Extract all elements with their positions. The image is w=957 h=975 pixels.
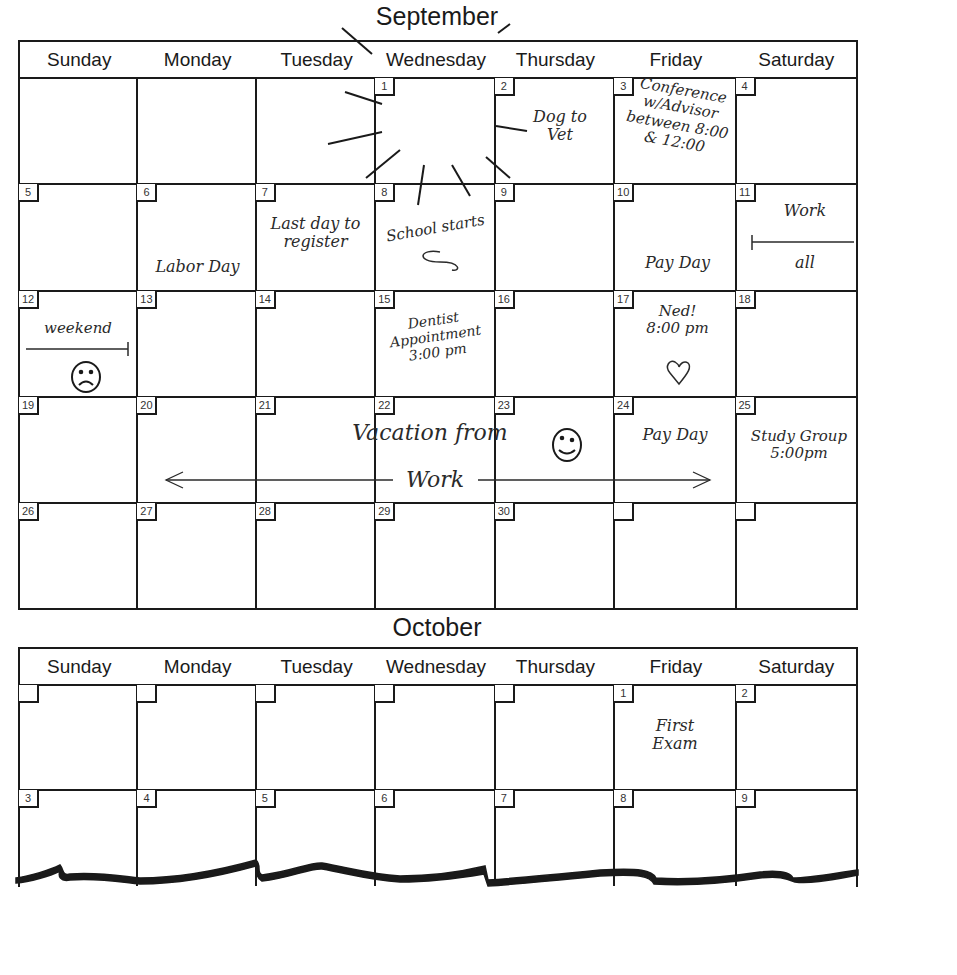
weekday-thursday: Thursday xyxy=(496,649,615,684)
day-number: 22 xyxy=(375,397,395,415)
day-number xyxy=(736,503,756,521)
weekday-sunday: Sunday xyxy=(20,42,138,77)
day-cell[interactable] xyxy=(737,504,856,609)
weekday-sunday: Sunday xyxy=(20,649,138,684)
day-number xyxy=(614,503,634,521)
day-cell[interactable]: 6 xyxy=(376,791,495,886)
day-number: 12 xyxy=(19,291,39,309)
day-number: 26 xyxy=(19,503,39,521)
weekday-wednesday: Wednesday xyxy=(376,42,495,77)
day-number: 24 xyxy=(614,397,634,415)
week-row: 12 xyxy=(20,686,856,791)
day-number xyxy=(495,685,515,703)
day-number xyxy=(256,685,276,703)
day-number: 10 xyxy=(614,184,634,202)
day-cell[interactable] xyxy=(138,79,256,183)
day-cell[interactable] xyxy=(257,79,376,183)
day-number: 5 xyxy=(256,790,276,808)
day-cell[interactable] xyxy=(138,686,256,789)
note-first-exam: First Exam xyxy=(640,717,710,754)
note-vacation-top: Vacation from xyxy=(330,420,530,445)
weekday-friday: Friday xyxy=(615,42,736,77)
day-number: 16 xyxy=(495,291,515,309)
weekday-saturday: Saturday xyxy=(737,42,856,77)
day-cell[interactable]: 9 xyxy=(496,185,615,290)
day-number: 1 xyxy=(614,685,634,703)
day-cell[interactable]: 18 xyxy=(737,292,856,396)
note-weekend: weekend xyxy=(28,320,128,337)
weekday-tuesday: Tuesday xyxy=(257,42,376,77)
day-cell[interactable]: 13 xyxy=(138,292,256,396)
day-cell[interactable]: 12 xyxy=(20,292,138,396)
day-number: 6 xyxy=(375,790,395,808)
day-cell[interactable]: 5 xyxy=(257,791,376,886)
note-work-top: Work xyxy=(775,202,835,220)
day-cell[interactable]: 23 xyxy=(496,398,615,502)
weekday-tuesday: Tuesday xyxy=(257,649,376,684)
note-work-bottom: all xyxy=(785,254,825,272)
day-cell[interactable]: 10 xyxy=(615,185,736,290)
day-number: 21 xyxy=(256,397,276,415)
day-cell[interactable]: 19 xyxy=(20,398,138,502)
day-number: 5 xyxy=(19,184,39,202)
day-cell[interactable]: 4 xyxy=(138,791,256,886)
day-number: 20 xyxy=(137,397,157,415)
day-cell[interactable]: 1 xyxy=(376,79,495,183)
week-row: 3456789 xyxy=(20,791,856,886)
day-cell[interactable]: 14 xyxy=(257,292,376,396)
day-cell[interactable]: 4 xyxy=(737,79,856,183)
day-cell[interactable] xyxy=(496,686,615,789)
weekday-header: SundayMondayTuesdayWednesdayThursdayFrid… xyxy=(20,42,856,79)
day-cell[interactable]: 5 xyxy=(20,185,138,290)
day-number: 6 xyxy=(137,184,157,202)
note-last-day-register: Last day to register xyxy=(258,215,373,252)
day-number: 9 xyxy=(495,184,515,202)
day-number xyxy=(137,685,157,703)
weekday-header: SundayMondayTuesdayWednesdayThursdayFrid… xyxy=(20,649,856,686)
weekday-monday: Monday xyxy=(138,42,256,77)
weekday-monday: Monday xyxy=(138,649,256,684)
day-number: 25 xyxy=(736,397,756,415)
day-number: 29 xyxy=(375,503,395,521)
day-number: 28 xyxy=(256,503,276,521)
weekday-wednesday: Wednesday xyxy=(376,649,495,684)
day-number: 13 xyxy=(137,291,157,309)
day-cell[interactable] xyxy=(615,504,736,609)
note-study-group: Study Group 5:00pm xyxy=(740,428,858,463)
day-cell[interactable]: 21 xyxy=(257,398,376,502)
day-number: 19 xyxy=(19,397,39,415)
day-number: 15 xyxy=(375,291,395,309)
october-title: October xyxy=(337,613,537,642)
day-number: 7 xyxy=(495,790,515,808)
day-number: 17 xyxy=(614,291,634,309)
day-cell[interactable]: 28 xyxy=(257,504,376,609)
day-number: 11 xyxy=(736,184,756,202)
day-cell[interactable]: 8 xyxy=(615,791,736,886)
day-cell[interactable] xyxy=(376,686,495,789)
day-number: 30 xyxy=(495,503,515,521)
day-cell[interactable]: 20 xyxy=(138,398,256,502)
day-cell[interactable]: 29 xyxy=(376,504,495,609)
day-cell[interactable]: 26 xyxy=(20,504,138,609)
day-cell[interactable] xyxy=(20,79,138,183)
day-number: 1 xyxy=(375,78,395,96)
day-cell[interactable]: 16 xyxy=(496,292,615,396)
day-cell[interactable] xyxy=(20,686,138,789)
day-cell[interactable]: 7 xyxy=(496,791,615,886)
weekday-thursday: Thursday xyxy=(496,42,615,77)
day-cell[interactable]: 24 xyxy=(615,398,736,502)
note-pay-day-24: Pay Day xyxy=(625,426,725,444)
day-number: 27 xyxy=(137,503,157,521)
day-cell[interactable]: 2 xyxy=(737,686,856,789)
day-cell[interactable]: 30 xyxy=(496,504,615,609)
day-cell[interactable] xyxy=(257,686,376,789)
day-cell[interactable]: 9 xyxy=(737,791,856,886)
note-vacation-bottom: Work xyxy=(390,467,480,492)
day-number xyxy=(375,685,395,703)
weekday-saturday: Saturday xyxy=(737,649,856,684)
day-cell[interactable]: 27 xyxy=(138,504,256,609)
weekday-friday: Friday xyxy=(615,649,736,684)
october-calendar: SundayMondayTuesdayWednesdayThursdayFrid… xyxy=(18,647,858,887)
day-cell[interactable]: 3 xyxy=(20,791,138,886)
day-number: 8 xyxy=(375,184,395,202)
